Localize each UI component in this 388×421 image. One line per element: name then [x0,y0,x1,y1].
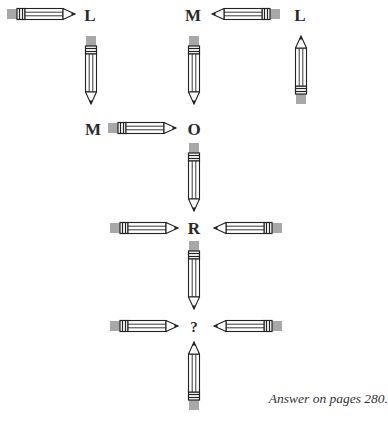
pencil-icon [296,35,307,104]
pencil-icon [189,143,200,212]
pencil-icon [110,223,179,234]
pencil-layer [0,0,388,421]
puzzle-letter: M [185,7,201,24]
puzzle-letter: ? [190,320,198,335]
pencil-icon [213,321,282,332]
pencil-icon [189,36,200,105]
pencil-icon [7,9,76,20]
puzzle-letter: M [85,121,101,138]
pencil-icon [189,341,200,410]
pencil-icon [110,321,179,332]
puzzle-letter: R [188,220,200,237]
puzzle-letter: L [294,7,305,24]
pencil-icon [211,9,280,20]
answer-caption: Answer on pages 280. [269,391,388,407]
pencil-icon [189,241,200,310]
pencil-icon [108,123,177,134]
pencil-icon [213,223,282,234]
pencil-puzzle: LMLMOR? Answer on pages 280. [0,0,388,421]
pencil-icon [86,36,97,105]
puzzle-letter: O [187,121,200,138]
puzzle-letter: L [84,7,95,24]
